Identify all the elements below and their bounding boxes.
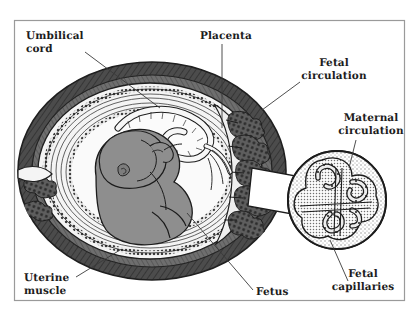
uterus-group [18, 62, 286, 280]
label-fetal-capillaries: Fetal capillaries [324, 268, 402, 293]
figure-root: Umbilical cord Placenta Fetal circulatio… [0, 0, 418, 326]
label-umbilical-cord: Umbilical cord [26, 30, 96, 55]
label-fetal-circulation: Fetal circulation [296, 57, 372, 82]
placental-villus-inset [288, 151, 386, 249]
label-uterine-muscle: Uterine muscle [24, 272, 90, 297]
label-maternal-circulation: Maternal circulation [331, 112, 411, 137]
label-placenta: Placenta [200, 30, 266, 43]
label-fetus: Fetus [256, 286, 306, 299]
leader-fetal-circulation [262, 82, 300, 110]
